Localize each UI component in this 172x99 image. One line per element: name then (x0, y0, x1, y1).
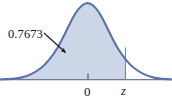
x-axis-origin-label: 0 (84, 85, 91, 98)
normal-distribution-figure: 0.7673 0 z (0, 0, 172, 99)
x-axis-z-label: z (121, 85, 126, 98)
shaded-area-left-of-z (1, 3, 171, 79)
shaded-area-value-label: 0.7673 (8, 28, 43, 41)
